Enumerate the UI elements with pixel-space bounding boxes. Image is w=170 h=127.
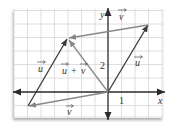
grid — [14, 9, 163, 118]
vector-addition-diagram: x y 1 2 u v — [0, 0, 170, 127]
grid-panel — [14, 9, 163, 118]
y-axis-label: y — [99, 9, 105, 20]
x-tick-label: 1 — [119, 95, 124, 106]
y-tick-label: 2 — [100, 60, 105, 71]
label-v-top-text: v — [119, 11, 124, 22]
label-u-plus-v-plus: + — [71, 65, 77, 76]
diagram-canvas: x y 1 2 u v — [0, 0, 170, 127]
x-axis-label: x — [157, 95, 163, 106]
label-u-plus-v: u + v — [61, 63, 88, 77]
label-u-right-text: u — [135, 57, 140, 68]
label-u-plus-v-u: u — [62, 65, 67, 76]
label-u-plus-v-v: v — [81, 65, 86, 76]
label-v-bottom-text: v — [67, 106, 72, 117]
label-u-left-text: u — [38, 63, 43, 74]
